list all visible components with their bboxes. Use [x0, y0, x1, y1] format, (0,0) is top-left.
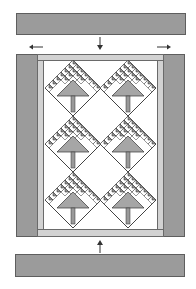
quilt-center [43, 60, 157, 230]
arrow-down-icon [96, 37, 104, 51]
bottom-border-strip [15, 254, 185, 277]
arrow-right-icon [157, 44, 171, 50]
tree-block-r2c2 [100, 116, 156, 172]
tree-block-r3c1 [45, 172, 101, 228]
bottom-sashing [37, 229, 164, 237]
tree-block-r1c1 [45, 60, 101, 116]
tree-block-r3c2 [100, 172, 156, 228]
right-border-strip [163, 54, 185, 237]
right-sashing [157, 60, 164, 230]
arrow-up-icon [96, 239, 104, 253]
tree-block-r1c2 [100, 60, 156, 116]
left-border-strip [16, 54, 38, 237]
top-border-strip [16, 13, 186, 35]
tree-block-r2c1 [45, 116, 101, 172]
arrow-left-icon [29, 44, 43, 50]
